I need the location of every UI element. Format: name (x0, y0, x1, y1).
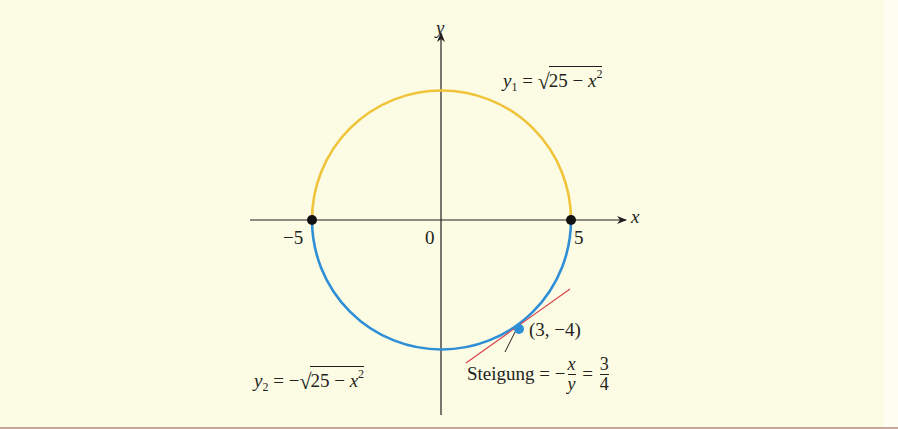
circle-diagram (0, 0, 898, 429)
slope-fraction-value: 34 (600, 356, 609, 393)
slope-equals2: = (578, 363, 598, 384)
upper-eq-radicand-exp: 2 (596, 67, 602, 81)
lower-eq-radicand: 25 − x2 (310, 366, 364, 390)
lower-curve-equation: y2 = −√25 − x2 (254, 366, 364, 393)
lower-eq-sign: − (289, 370, 300, 391)
tick-label-pos5: 5 (574, 228, 584, 247)
tangent-point (514, 324, 524, 334)
frac-den-y: y (568, 376, 576, 393)
frac-den-4: 4 (600, 376, 609, 393)
intercept-point-neg5 (307, 215, 317, 225)
slope-fraction-xy: xy (568, 356, 576, 393)
tick-label-neg5: −5 (283, 228, 303, 247)
upper-eq-equals: = (517, 70, 537, 91)
intercept-point-pos5 (566, 215, 576, 225)
x-axis-label: x (631, 207, 639, 226)
lower-eq-equals: = (268, 370, 288, 391)
upper-eq-radicand-num: 25 − (549, 70, 588, 91)
y-axis-label: y (436, 18, 444, 37)
slope-equals: = − (535, 363, 566, 384)
upper-eq-sqrt: √25 − x2 (538, 66, 603, 93)
lower-eq-radicand-exp: 2 (358, 367, 364, 381)
lower-eq-radicand-num: 25 − (310, 370, 349, 391)
upper-curve-equation: y1 = √25 − x2 (503, 66, 602, 93)
lower-eq-radicand-var: x (350, 370, 358, 391)
frac-num-x: x (568, 356, 576, 373)
slope-word: Steigung (467, 363, 535, 384)
upper-eq-radicand: 25 − x2 (549, 66, 603, 90)
origin-label: 0 (425, 228, 435, 247)
leader-line (505, 332, 515, 352)
point-label: (3, −4) (529, 320, 581, 339)
lower-eq-sqrt: √25 − x2 (299, 366, 364, 393)
frac-num-3: 3 (600, 356, 609, 373)
slope-annotation: Steigung = −xy = 34 (467, 357, 611, 394)
